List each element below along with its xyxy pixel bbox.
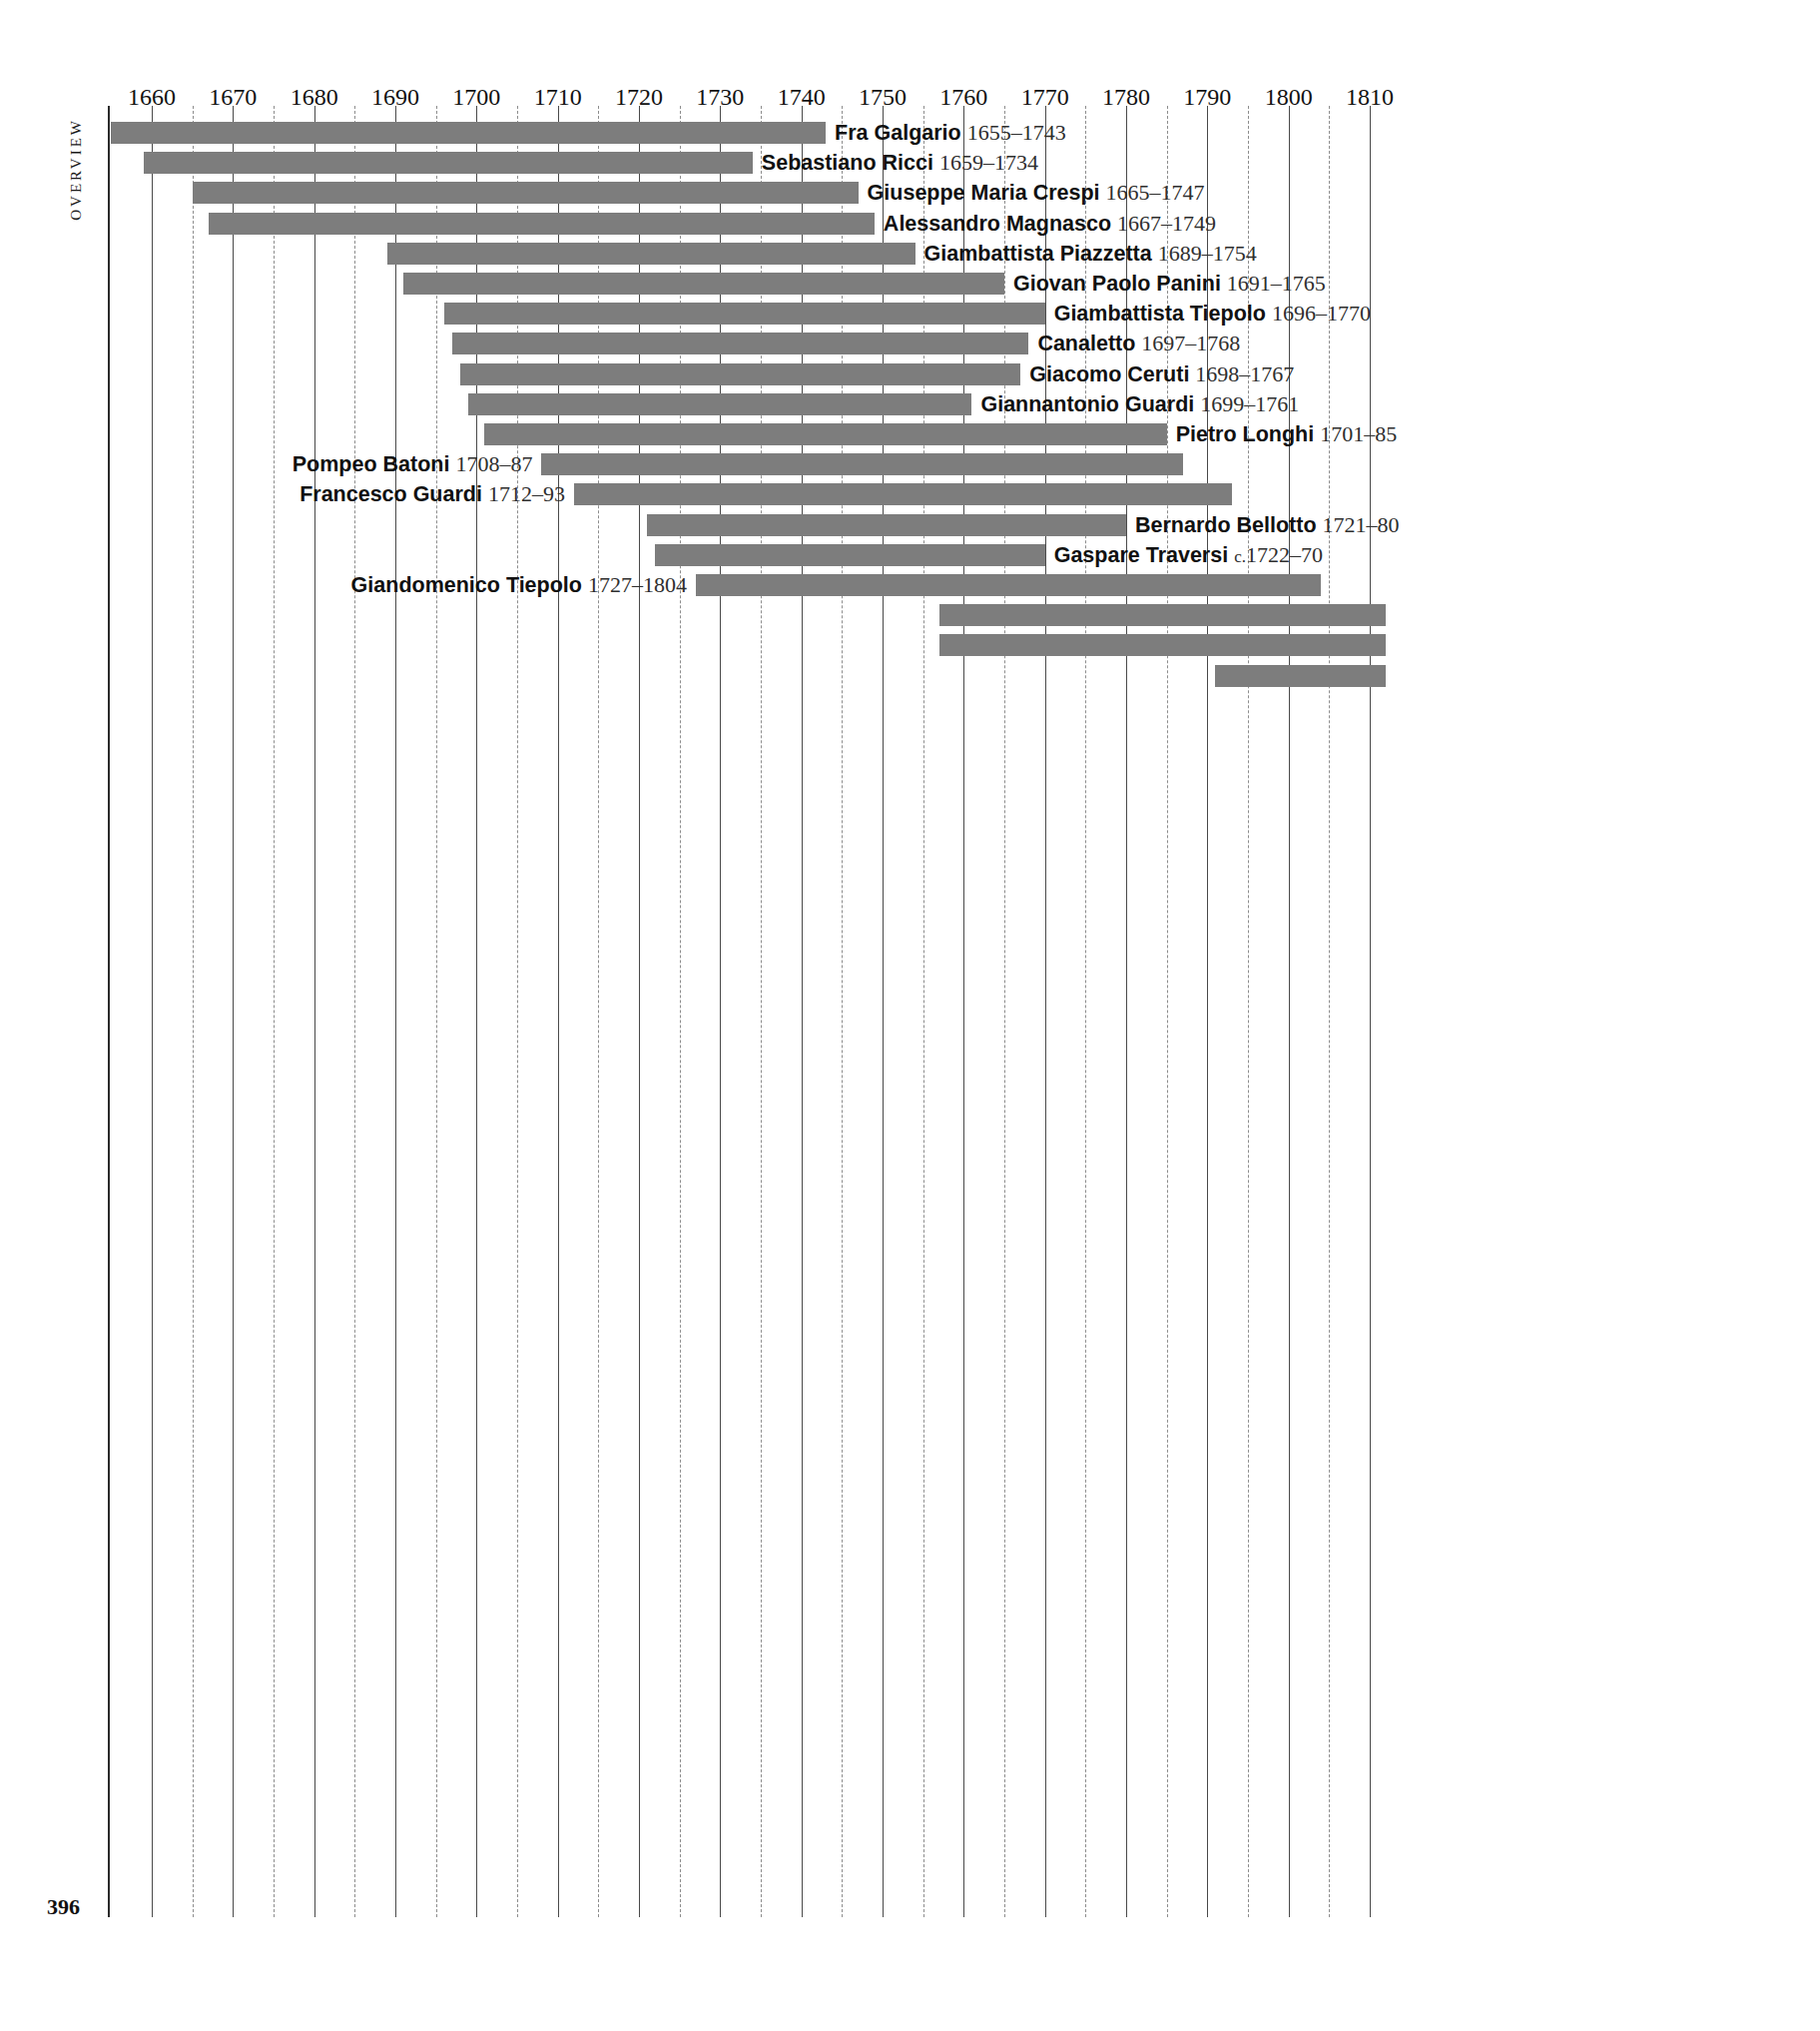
artist-label: Alessandro Magnasco 1667–1749 <box>884 209 1216 239</box>
lifespan-bar <box>647 514 1126 536</box>
lifespan-bar <box>111 122 826 144</box>
artist-name: Giambattista Tiepolo <box>1054 302 1266 326</box>
lifespan-bar <box>939 604 1386 626</box>
artist-dates: 1689–1754 <box>1158 241 1257 266</box>
artist-label: Giambattista Piazzetta 1689–1754 <box>924 239 1257 269</box>
artist-label: Giacomo Ceruti 1698–1767 <box>1029 359 1294 389</box>
artist-name: Giacomo Ceruti <box>1029 362 1189 386</box>
lifespan-bar <box>144 152 753 174</box>
timeline-row: Francesco Guardi 1712–93 <box>0 479 1820 509</box>
timeline-row: Fra Galgario 1655–1743 <box>0 118 1820 148</box>
lifespan-bar <box>655 544 1044 566</box>
artist-name: Giambattista Piazzetta <box>924 242 1152 266</box>
artist-dates: 1667–1749 <box>1117 211 1216 236</box>
timeline-row: Giannantonio Guardi 1699–1761 <box>0 389 1820 419</box>
lifespan-bar <box>468 393 971 415</box>
timeline-row: Gaspare Traversi c.1722–70 <box>0 540 1820 570</box>
timeline-row: Sebastiano Ricci 1659–1734 <box>0 148 1820 178</box>
artist-name: Giovan Paolo Panini <box>1013 272 1221 296</box>
lifespan-bar <box>1215 665 1386 687</box>
artist-name: Pietro Longhi <box>1176 422 1315 446</box>
artist-name: Fra Galgario <box>835 121 961 145</box>
lifespan-bar <box>696 574 1321 596</box>
artist-name: Giuseppe Maria Crespi <box>868 181 1100 205</box>
lifespan-bar <box>209 213 875 235</box>
lifespan-bar <box>452 333 1028 354</box>
artist-label: Giovan Paolo Panini 1691–1765 <box>1013 269 1326 299</box>
artist-name: Sebastiano Ricci <box>762 151 933 175</box>
timeline-row: Giacomo Ceruti 1698–1767 <box>0 359 1820 389</box>
artist-label: Giuseppe Maria Crespi 1665–1747 <box>868 178 1205 208</box>
timeline-chart: OVERVIEW 1660167016801690170017101720173… <box>0 0 1820 2031</box>
timeline-row <box>0 661 1820 691</box>
artist-label: Sebastiano Ricci 1659–1734 <box>762 148 1038 178</box>
timeline-row: Giuseppe Maria Crespi 1665–1747 <box>0 178 1820 208</box>
lifespan-bar <box>403 273 1004 295</box>
timeline-row: Pompeo Batoni 1708–87 <box>0 449 1820 479</box>
timeline-row: Bernardo Bellotto 1721–80 <box>0 510 1820 540</box>
lifespan-bar <box>541 453 1183 475</box>
timeline-row: Giovan Paolo Panini 1691–1765 <box>0 269 1820 299</box>
artist-label: Gaspare Traversi c.1722–70 <box>1054 540 1323 570</box>
artist-dates: 1696–1770 <box>1272 301 1371 326</box>
artist-name: Giandomenico Tiepolo <box>351 573 582 597</box>
artist-label: Canaletto 1697–1768 <box>1037 329 1240 358</box>
timeline-row: Giandomenico Tiepolo 1727–1804 <box>0 570 1820 600</box>
timeline-row <box>0 600 1820 630</box>
artist-dates: 1697–1768 <box>1141 331 1240 355</box>
artist-dates: 1721–80 <box>1323 512 1400 537</box>
artist-dates: 1659–1734 <box>939 150 1038 175</box>
timeline-row: Alessandro Magnasco 1667–1749 <box>0 209 1820 239</box>
lifespan-bar <box>460 363 1020 385</box>
page-number: 396 <box>47 1894 80 1920</box>
timeline-row: Pietro Longhi 1701–85 <box>0 419 1820 449</box>
artist-name: Pompeo Batoni <box>293 452 450 476</box>
timeline-row: Giambattista Piazzetta 1689–1754 <box>0 239 1820 269</box>
artist-name: Giannantonio Guardi <box>980 392 1194 416</box>
artist-dates: 1712–93 <box>488 481 565 506</box>
lifespan-bar <box>574 483 1232 505</box>
artist-name: Gaspare Traversi <box>1054 543 1229 567</box>
artist-dates: 1665–1747 <box>1106 180 1205 205</box>
timeline-row: Giambattista Tiepolo 1696–1770 <box>0 299 1820 329</box>
artist-label: Bernardo Bellotto 1721–80 <box>1135 510 1400 540</box>
artist-name: Bernardo Bellotto <box>1135 513 1317 537</box>
artist-label: Giambattista Tiepolo 1696–1770 <box>1054 299 1371 329</box>
artist-dates: c.1722–70 <box>1234 542 1323 567</box>
artist-label: Giannantonio Guardi 1699–1761 <box>980 389 1299 419</box>
artist-label: Pietro Longhi 1701–85 <box>1176 419 1398 449</box>
artist-name: Francesco Guardi <box>300 482 482 506</box>
artist-dates: 1655–1743 <box>967 120 1066 145</box>
artist-dates: 1691–1765 <box>1227 271 1326 296</box>
artist-label: Giandomenico Tiepolo 1727–1804 <box>351 570 687 600</box>
timeline-row: Canaletto 1697–1768 <box>0 329 1820 358</box>
artist-label: Francesco Guardi 1712–93 <box>300 479 565 509</box>
lifespan-bar <box>484 423 1166 445</box>
artist-dates: 1701–85 <box>1320 421 1397 446</box>
artist-name: Canaletto <box>1037 332 1135 355</box>
artist-dates: 1699–1761 <box>1200 391 1299 416</box>
lifespan-bar <box>939 634 1386 656</box>
timeline-row <box>0 630 1820 660</box>
lifespan-bar <box>444 303 1045 325</box>
artist-label: Fra Galgario 1655–1743 <box>835 118 1066 148</box>
artist-dates: 1708–87 <box>455 451 532 476</box>
artist-name: Alessandro Magnasco <box>884 212 1111 236</box>
lifespan-bar <box>387 243 915 265</box>
lifespan-bar <box>193 182 859 204</box>
artist-label: Pompeo Batoni 1708–87 <box>293 449 533 479</box>
artist-dates: 1727–1804 <box>588 572 687 597</box>
artist-dates: 1698–1767 <box>1195 361 1294 386</box>
